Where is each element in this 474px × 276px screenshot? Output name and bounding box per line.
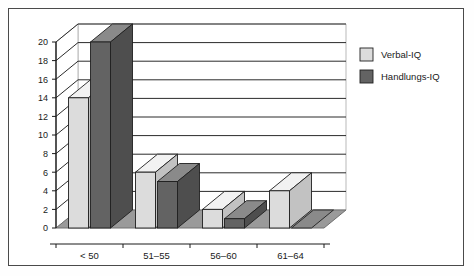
y-axis-tick-label: 4 — [43, 186, 48, 196]
legend-swatch-1 — [360, 70, 373, 83]
bar-front-face — [69, 98, 89, 228]
y-axis-tick-label: 14 — [38, 93, 48, 103]
y-axis-tick-label: 8 — [43, 149, 48, 159]
legend-swatch-0 — [360, 48, 373, 61]
legend-label-0: Verbal-IQ — [381, 49, 421, 60]
bar-front-face — [270, 191, 290, 228]
x-axis-category-label: 56–60 — [210, 250, 236, 261]
legend-label-1: Handlungs-IQ — [381, 71, 440, 82]
bar-front-face — [158, 182, 178, 229]
chart-figure: 02468101214161820< 5051–5556–6061–64Verb… — [0, 0, 474, 276]
bar-front-face — [136, 172, 156, 228]
x-axis-category-label: < 50 — [80, 250, 99, 261]
bar-front-face — [225, 219, 245, 228]
x-axis-category-label: 51–55 — [143, 250, 169, 261]
bar-handlungs-iq-0 — [91, 24, 133, 228]
y-axis-tick-label: 0 — [43, 223, 48, 233]
y-axis-tick-label: 20 — [38, 37, 48, 47]
y-axis-tick-label: 12 — [38, 112, 48, 122]
bar-front-face — [203, 209, 223, 228]
y-axis-tick-label: 16 — [38, 75, 48, 85]
y-axis-tick-label: 6 — [43, 168, 48, 178]
y-axis-tick-label: 2 — [43, 205, 48, 215]
bar-chart: 02468101214161820< 5051–5556–6061–64Verb… — [0, 0, 474, 276]
bar-side-face — [111, 24, 133, 228]
y-axis-tick-label: 18 — [38, 56, 48, 66]
bar-front-face — [91, 42, 111, 228]
x-axis-category-label: 61–64 — [277, 250, 303, 261]
y-axis-tick-label: 10 — [38, 130, 48, 140]
